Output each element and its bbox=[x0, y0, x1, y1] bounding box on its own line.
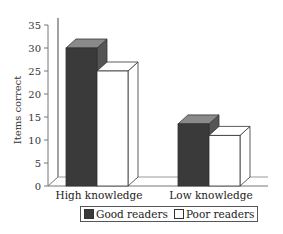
x-category-label: Low knowledge bbox=[169, 189, 252, 201]
y-tick-label: 15 bbox=[28, 112, 41, 123]
y-tick-label: 30 bbox=[28, 43, 41, 54]
legend-swatch-poor bbox=[174, 209, 184, 219]
y-tick-label: 5 bbox=[35, 158, 41, 169]
legend-label: Good readers bbox=[96, 208, 168, 220]
bars bbox=[66, 39, 250, 186]
bar-chart: 05101520253035High knowledgeLow knowledg… bbox=[0, 0, 283, 234]
legend-item-poor-readers: Poor readers bbox=[174, 208, 254, 220]
y-tick-label: 35 bbox=[28, 20, 41, 31]
y-axis-label: Items correct bbox=[12, 76, 23, 144]
y-tick-label: 20 bbox=[28, 89, 41, 100]
bar-poor-readers-low-knowledge bbox=[209, 126, 250, 186]
legend: Good readers Poor readers bbox=[80, 206, 258, 222]
legend-label: Poor readers bbox=[186, 208, 254, 220]
legend-swatch-good bbox=[84, 209, 94, 219]
x-category-label: High knowledge bbox=[56, 189, 143, 201]
y-tick-label: 25 bbox=[28, 66, 41, 77]
legend-item-good-readers: Good readers bbox=[84, 208, 168, 220]
y-tick-label: 0 bbox=[35, 181, 41, 192]
y-tick-label: 10 bbox=[28, 135, 41, 146]
bar-poor-readers-high-knowledge bbox=[97, 62, 138, 186]
